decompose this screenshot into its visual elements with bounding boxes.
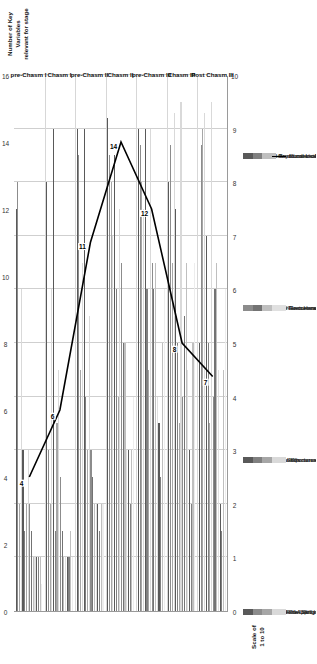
y-axis-title: Scale of1 to 10 xyxy=(250,614,266,660)
chart-figure: Scale of1 to 10 Number of KeyVariablesre… xyxy=(0,0,316,664)
legend-line-swatch xyxy=(272,156,286,157)
secondary-y-axis-tick-label: 6 xyxy=(0,408,17,415)
bar xyxy=(164,289,165,611)
legend-column: Entrepreneurial Skill IntensityTeam Role… xyxy=(240,464,310,612)
secondary-y-axis-tick-label: 2 xyxy=(0,542,17,549)
legend-item[interactable]: Number of key variables scoring 5 or mor… xyxy=(272,153,317,159)
secondary-y-axis-tick-label: 8 xyxy=(0,341,17,348)
plot-area: 4611141287 xyxy=(14,76,228,612)
legend-label: Remuneration and Rewards xyxy=(289,305,317,311)
legend-label: Number of key variables scoring 5 or mor… xyxy=(289,153,317,159)
category-label: Post Chasm III xyxy=(182,71,242,78)
bar xyxy=(133,397,134,611)
bar xyxy=(102,504,103,611)
secondary-y-axis-tick-label: 12 xyxy=(0,207,17,214)
line-data-label: 7 xyxy=(202,379,208,386)
legend-item[interactable]: Importance of behaviours xyxy=(272,457,317,463)
line-data-label: 12 xyxy=(139,210,148,217)
secondary-y-axis-tick-label: 10 xyxy=(0,274,17,281)
secondary-y-axis-tick-label: 4 xyxy=(0,475,17,482)
line-data-label: 8 xyxy=(172,346,178,353)
legend-color-swatch xyxy=(272,305,286,311)
legend-label: Importance of behaviours xyxy=(289,457,317,463)
line-data-label: 4 xyxy=(19,480,25,487)
chart-legend: Entrepreneurial Skill IntensityTeam Role… xyxy=(240,8,310,612)
secondary-y-axis-tick-label: 0 xyxy=(0,609,17,616)
line-data-label: 11 xyxy=(78,244,87,251)
secondary-y-axis-tick-label: 14 xyxy=(0,140,17,147)
legend-column: Synthesis SkillsHigh-performance team mn… xyxy=(240,312,310,460)
legend-color-swatch xyxy=(272,457,286,463)
gridline xyxy=(14,128,227,129)
legend-column: Use of Psychometric ProfilingConventiona… xyxy=(240,8,310,156)
secondary-y-axis-title: Number of KeyVariablesrelevant for stage xyxy=(6,4,30,64)
legend-color-swatch xyxy=(272,609,286,615)
bar xyxy=(41,584,42,611)
legend-item[interactable]: Remuneration and Rewards xyxy=(272,305,317,311)
line-data-label: 6 xyxy=(50,413,56,420)
bar xyxy=(194,263,195,611)
bar xyxy=(72,557,73,611)
legend-column: Hybrid techno-commercial SkillsVirtual T… xyxy=(240,160,310,308)
line-data-label: 14 xyxy=(109,143,118,150)
legend-item[interactable]: Prevailing Culture xyxy=(272,609,317,615)
chart-rotation-wrapper: Scale of1 to 10 Number of KeyVariablesre… xyxy=(0,0,316,664)
legend-label: Prevailing Culture xyxy=(289,609,317,615)
